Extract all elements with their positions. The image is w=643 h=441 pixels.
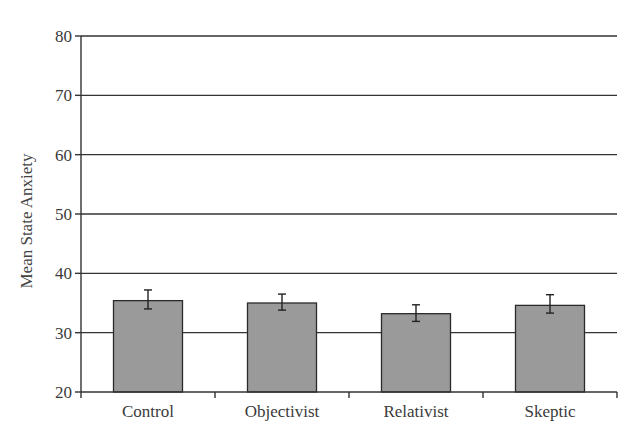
y-tick-label: 40 xyxy=(55,264,72,283)
x-tick-label: Skeptic xyxy=(525,402,576,421)
y-tick-label: 80 xyxy=(55,27,72,46)
x-tick-label: Control xyxy=(122,402,174,421)
bar-relativist xyxy=(382,314,451,392)
bar-objectivist xyxy=(248,303,317,392)
x-tick-label: Objectivist xyxy=(245,402,320,421)
bars xyxy=(114,290,585,392)
y-tick-label: 20 xyxy=(55,383,72,402)
y-tick-label: 70 xyxy=(55,86,72,105)
bar-skeptic xyxy=(516,305,585,392)
y-tick-label: 30 xyxy=(55,324,72,343)
bar-chart: 20304050607080 ControlObjectivistRelativ… xyxy=(0,0,643,441)
y-tick-labels: 20304050607080 xyxy=(55,27,72,402)
gridlines xyxy=(81,36,617,333)
y-tick-label: 50 xyxy=(55,205,72,224)
x-tick-labels: ControlObjectivistRelativistSkeptic xyxy=(122,402,576,421)
y-axis-label: Mean State Anxiety xyxy=(17,153,37,288)
x-tick-label: Relativist xyxy=(383,402,448,421)
y-tick-label: 60 xyxy=(55,146,72,165)
bar-control xyxy=(114,301,183,392)
